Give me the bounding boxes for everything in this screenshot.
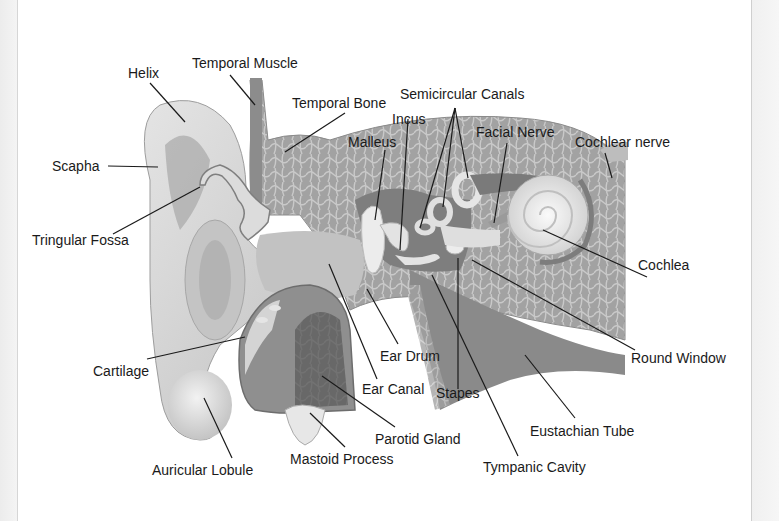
label-round-window: Round Window xyxy=(631,350,726,366)
label-ear-drum: Ear Drum xyxy=(380,348,440,364)
label-helix: Helix xyxy=(128,65,159,81)
label-tringular-fossa: Tringular Fossa xyxy=(32,232,129,248)
label-incus: Incus xyxy=(392,111,425,127)
label-eustachian-tube: Eustachian Tube xyxy=(530,423,634,439)
label-cochlea: Cochlea xyxy=(638,257,689,273)
label-mastoid-process: Mastoid Process xyxy=(290,451,393,467)
label-cochlear-nerve: Cochlear nerve xyxy=(575,134,670,150)
label-cartilage: Cartilage xyxy=(93,363,149,379)
cochlea-shape xyxy=(508,175,588,255)
label-facial-nerve: Facial Nerve xyxy=(476,124,555,140)
label-malleus: Malleus xyxy=(348,134,396,150)
label-semicircular-canals: Semicircular Canals xyxy=(400,86,524,102)
label-scapha: Scapha xyxy=(52,158,99,174)
label-temporal-bone: Temporal Bone xyxy=(292,95,386,111)
label-ear-canal: Ear Canal xyxy=(362,381,424,397)
label-tympanic-cavity: Tympanic Cavity xyxy=(483,459,586,475)
auricular-lobule-shape xyxy=(168,370,232,440)
mastoid-process-shape xyxy=(285,405,325,445)
label-stapes: Stapes xyxy=(436,385,480,401)
label-temporal-muscle: Temporal Muscle xyxy=(192,55,298,71)
label-parotid-gland: Parotid Gland xyxy=(375,431,461,447)
label-auricular-lobule: Auricular Lobule xyxy=(152,462,253,478)
